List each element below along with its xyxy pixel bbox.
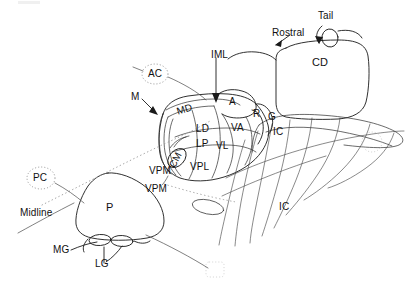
internal-capsule-fibers bbox=[219, 118, 404, 246]
label-m: M bbox=[131, 92, 139, 102]
label-vl: VL bbox=[216, 141, 228, 151]
label-vpm-upper: VPM bbox=[149, 166, 171, 176]
empty-dashed-marker-bottom bbox=[206, 262, 224, 277]
thalamus-diagram: Rostral Tail CD AC PC IML M MD A R LD LP… bbox=[0, 0, 415, 283]
leader-lines bbox=[18, 99, 208, 268]
label-tail: Tail bbox=[318, 11, 333, 21]
ac-marker bbox=[133, 64, 206, 100]
label-lg: LG bbox=[95, 259, 109, 269]
tail-arrow bbox=[315, 26, 323, 44]
label-r: R bbox=[253, 109, 260, 119]
caudate-tail-oval bbox=[321, 28, 362, 48]
label-ic-lower: IC bbox=[279, 202, 289, 212]
label-lp: LP bbox=[196, 139, 208, 149]
label-cd: CD bbox=[312, 57, 328, 68]
label-ac: AC bbox=[148, 69, 162, 79]
label-iml: IML bbox=[211, 50, 228, 60]
label-rostral: Rostral bbox=[272, 28, 304, 38]
label-midline: Midline bbox=[20, 208, 52, 218]
label-pc: PC bbox=[33, 173, 47, 183]
label-va: VA bbox=[231, 123, 244, 133]
label-vpm-lower: VPM bbox=[145, 184, 167, 194]
label-mg: MG bbox=[53, 245, 69, 255]
label-a: A bbox=[229, 97, 236, 107]
caudate-nucleus-outline bbox=[228, 40, 369, 119]
label-ld: LD bbox=[196, 124, 209, 134]
iml-arrow bbox=[212, 58, 220, 103]
label-g: G bbox=[268, 112, 276, 122]
label-ic-upper: IC bbox=[273, 127, 283, 137]
label-vpl: VPL bbox=[190, 162, 209, 172]
label-p: P bbox=[106, 202, 113, 213]
fiber-bundle-oval bbox=[191, 197, 225, 217]
